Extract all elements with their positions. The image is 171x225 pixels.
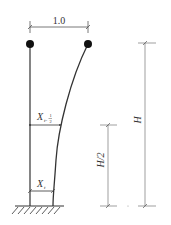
stray-dot	[127, 205, 128, 206]
half-height-label: H/2	[95, 153, 106, 169]
base-displacement-subscript: t	[44, 185, 46, 190]
base-displacement: X t	[28, 178, 55, 193]
mid-subscript-numerator: 1	[50, 113, 52, 118]
top-node-left-dot	[26, 40, 34, 48]
mid-displacement: X t- 1 2	[29, 111, 61, 126]
full-height-dimension: H	[132, 41, 156, 208]
mid-subscript-denominator: 2	[50, 119, 52, 124]
mid-displacement-subscript: t-	[44, 118, 47, 123]
width-label: 1.0	[53, 15, 66, 26]
fixed-ground-support	[12, 206, 64, 214]
width-dimension: 1.0	[28, 15, 90, 33]
half-height-dimension: H/2	[95, 123, 117, 208]
column-deflection-diagram: 1.0 X t- 1 2 X t	[0, 0, 171, 225]
top-node-right-dot	[84, 40, 92, 48]
full-height-label: H	[132, 116, 143, 125]
mid-displacement-symbol: X	[36, 111, 44, 122]
base-displacement-symbol: X	[36, 178, 44, 189]
